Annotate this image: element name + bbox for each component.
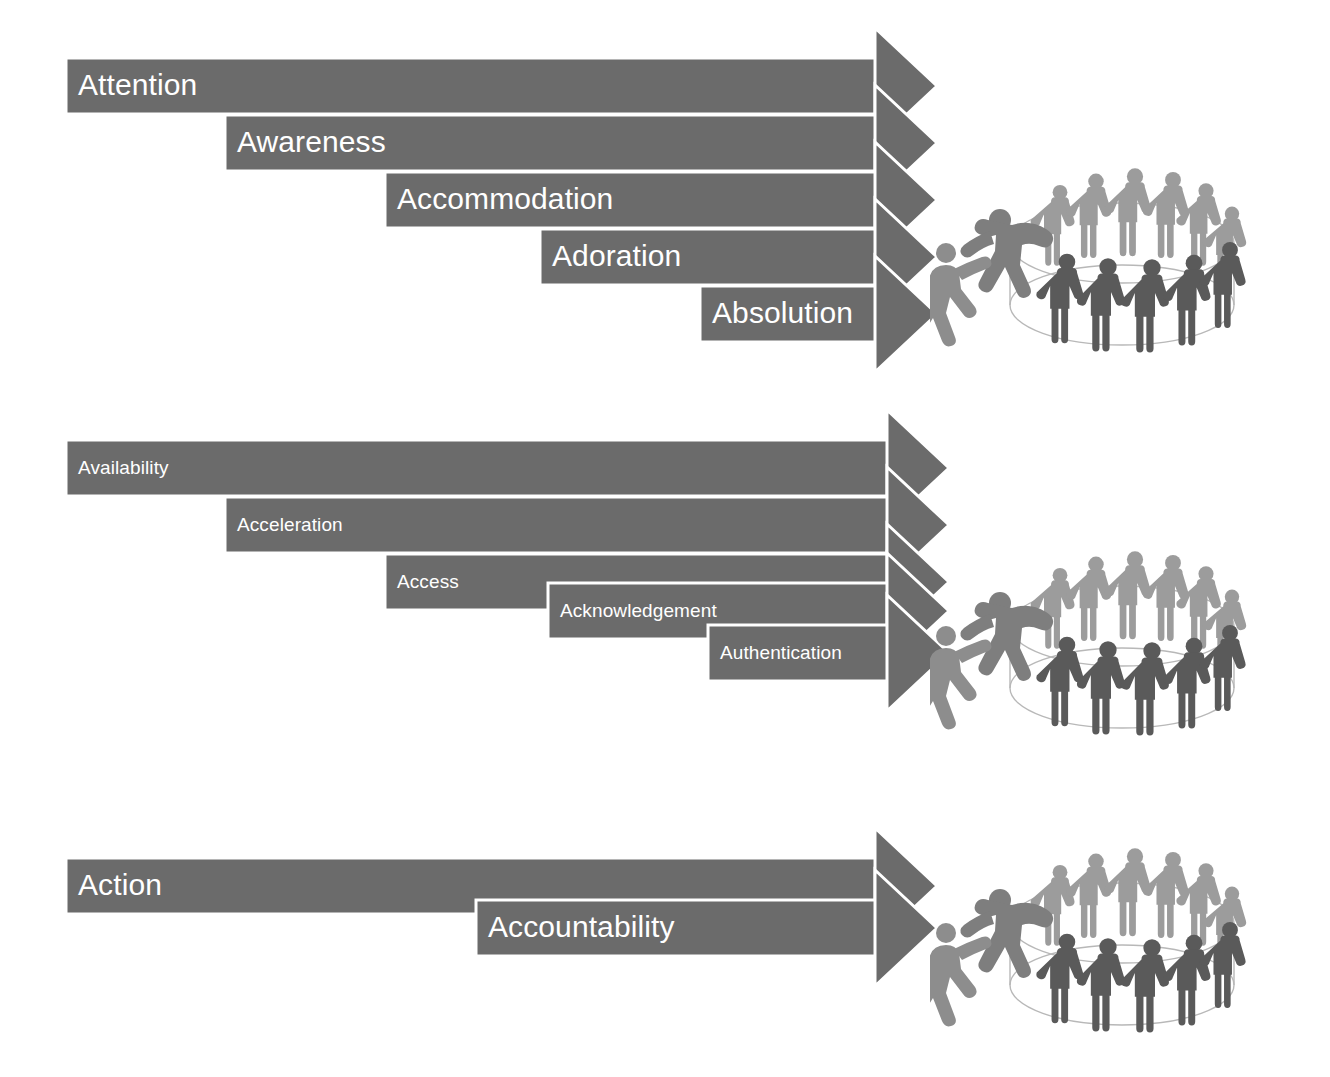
person-front-1 bbox=[1036, 637, 1083, 727]
arrow-body-group bbox=[540, 199, 937, 315]
arrow-head bbox=[875, 828, 937, 944]
arrow-label-attention: Attention bbox=[78, 70, 197, 100]
arrow-head bbox=[875, 142, 937, 258]
arrow-label-acknowledgement: Acknowledgement bbox=[560, 601, 717, 620]
arrow-shape bbox=[0, 0, 946, 1077]
arrow-body-group bbox=[700, 256, 937, 372]
person-front-1 bbox=[1036, 254, 1083, 344]
arrow-shape bbox=[0, 0, 946, 1077]
arrow-body-group bbox=[66, 410, 949, 526]
arrow-body-group bbox=[708, 595, 949, 711]
arrow-bar bbox=[225, 115, 876, 171]
arrow-body-group bbox=[548, 553, 949, 669]
arrow-body-group bbox=[66, 28, 937, 144]
arrow-bar bbox=[225, 497, 888, 553]
person-front-2 bbox=[1077, 258, 1125, 351]
arrow-head bbox=[875, 85, 937, 201]
arrow-label-acceleration: Acceleration bbox=[237, 515, 343, 534]
arrow-shape bbox=[0, 0, 946, 1077]
arrow-shape bbox=[0, 0, 958, 1077]
arrow-shape bbox=[0, 0, 958, 1077]
arrow-body-group bbox=[476, 870, 937, 986]
arrow-label-action: Action bbox=[78, 870, 162, 900]
reaching-figure bbox=[930, 923, 991, 1026]
person-front-2 bbox=[1077, 938, 1125, 1031]
person-front-3 bbox=[1121, 642, 1169, 735]
arrow-label-authentication: Authentication bbox=[720, 643, 842, 662]
arrow-body-group bbox=[385, 524, 949, 640]
arrow-shape bbox=[0, 0, 946, 1077]
diagram-canvas: AttentionAwarenessAccommodationAdoration… bbox=[0, 0, 1330, 1077]
arrow-shape bbox=[0, 0, 958, 1077]
arrow-bar bbox=[66, 58, 876, 114]
arrow-label-access: Access bbox=[397, 572, 459, 591]
arrow-head bbox=[875, 28, 937, 144]
person-front-1 bbox=[1036, 934, 1083, 1024]
circle-of-people-graphic bbox=[930, 805, 1260, 1040]
arrow-label-awareness: Awareness bbox=[237, 127, 386, 157]
person-front-2 bbox=[1077, 641, 1125, 734]
arrow-label-availability: Availability bbox=[78, 458, 169, 477]
person-front-3 bbox=[1121, 259, 1169, 352]
arrow-label-absolution: Absolution bbox=[712, 298, 853, 328]
arrow-bar bbox=[708, 625, 888, 681]
arrow-shape bbox=[0, 0, 946, 1077]
arrow-label-accountability: Accountability bbox=[488, 912, 675, 942]
reaching-figure bbox=[930, 243, 991, 346]
arrow-head bbox=[875, 870, 937, 986]
arrow-shape bbox=[0, 0, 958, 1077]
person-back-2 bbox=[1066, 557, 1111, 641]
arrow-body-group bbox=[225, 85, 937, 201]
arrow-head bbox=[875, 199, 937, 315]
arrow-bar bbox=[385, 554, 888, 610]
person-back-2 bbox=[1066, 174, 1111, 258]
person-front-3 bbox=[1121, 939, 1169, 1032]
arrow-head bbox=[875, 256, 937, 372]
arrow-bar bbox=[700, 286, 876, 342]
arrow-bar bbox=[385, 172, 876, 228]
arrow-shape bbox=[0, 0, 958, 1077]
arrow-bar bbox=[66, 440, 888, 496]
arrow-shape bbox=[0, 0, 946, 1077]
arrow-body-group bbox=[66, 828, 937, 944]
arrow-label-accommodation: Accommodation bbox=[397, 184, 613, 214]
circle-of-people-graphic bbox=[930, 125, 1260, 360]
arrow-label-adoration: Adoration bbox=[552, 241, 681, 271]
person-back-2 bbox=[1066, 854, 1111, 938]
circle-of-people-graphic bbox=[930, 508, 1260, 743]
arrow-bar bbox=[548, 583, 888, 639]
reaching-figure bbox=[930, 626, 991, 729]
arrow-body-group bbox=[225, 467, 949, 583]
arrow-shape bbox=[0, 0, 946, 1077]
arrow-bar bbox=[476, 900, 876, 956]
arrow-bar bbox=[540, 229, 876, 285]
arrow-body-group bbox=[385, 142, 937, 258]
arrow-bar bbox=[66, 858, 876, 914]
